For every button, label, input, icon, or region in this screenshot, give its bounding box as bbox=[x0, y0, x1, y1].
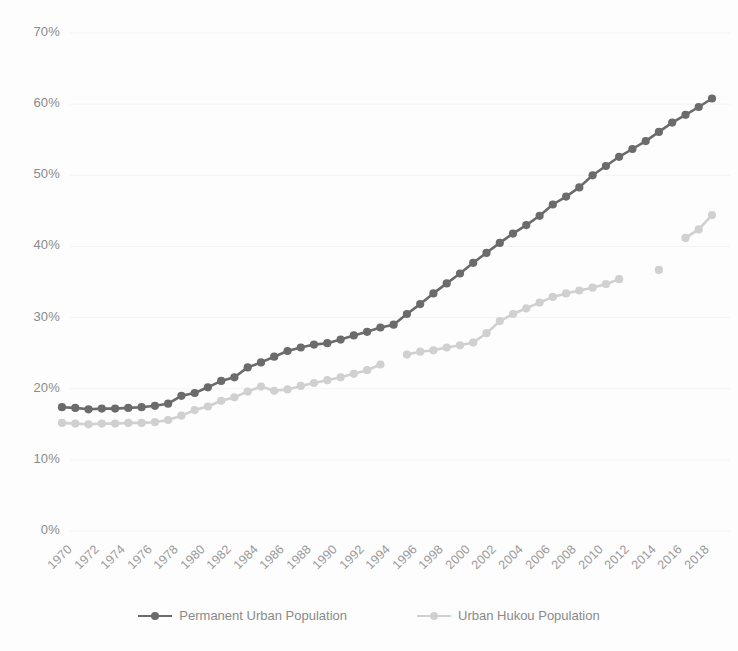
data-point[interactable] bbox=[230, 373, 238, 381]
data-point[interactable] bbox=[549, 200, 557, 208]
data-point[interactable] bbox=[71, 420, 79, 428]
data-point[interactable] bbox=[536, 212, 544, 220]
data-point[interactable] bbox=[98, 405, 106, 413]
data-point[interactable] bbox=[403, 310, 411, 318]
data-point[interactable] bbox=[363, 328, 371, 336]
data-point[interactable] bbox=[589, 171, 597, 179]
data-point[interactable] bbox=[628, 145, 636, 153]
data-point[interactable] bbox=[509, 230, 517, 238]
data-point[interactable] bbox=[575, 286, 583, 294]
data-point[interactable] bbox=[244, 388, 252, 396]
data-point[interactable] bbox=[124, 419, 132, 427]
data-point[interactable] bbox=[164, 400, 172, 408]
data-point[interactable] bbox=[496, 317, 504, 325]
data-point[interactable] bbox=[536, 299, 544, 307]
data-point[interactable] bbox=[297, 343, 305, 351]
data-point[interactable] bbox=[230, 393, 238, 401]
data-point[interactable] bbox=[456, 341, 464, 349]
data-point[interactable] bbox=[138, 403, 146, 411]
data-point[interactable] bbox=[708, 94, 716, 102]
data-point[interactable] bbox=[695, 225, 703, 233]
data-point[interactable] bbox=[310, 379, 318, 387]
data-point[interactable] bbox=[443, 279, 451, 287]
data-point[interactable] bbox=[416, 300, 424, 308]
data-point[interactable] bbox=[496, 239, 504, 247]
data-point[interactable] bbox=[337, 373, 345, 381]
data-point[interactable] bbox=[204, 402, 212, 410]
data-point[interactable] bbox=[323, 339, 331, 347]
legend-item-urban-hukou-population[interactable]: Urban Hukou Population bbox=[417, 608, 600, 623]
data-point[interactable] bbox=[509, 310, 517, 318]
data-point[interactable] bbox=[151, 418, 159, 426]
data-point[interactable] bbox=[323, 376, 331, 384]
data-point[interactable] bbox=[429, 346, 437, 354]
data-point[interactable] bbox=[58, 419, 66, 427]
data-point[interactable] bbox=[124, 404, 132, 412]
data-point[interactable] bbox=[562, 289, 570, 297]
data-point[interactable] bbox=[522, 304, 530, 312]
y-tick-label: 30% bbox=[8, 309, 60, 324]
data-point[interactable] bbox=[138, 419, 146, 427]
data-point[interactable] bbox=[482, 249, 490, 257]
data-point[interactable] bbox=[655, 128, 663, 136]
data-point[interactable] bbox=[549, 293, 557, 301]
data-point[interactable] bbox=[151, 402, 159, 410]
data-point[interactable] bbox=[681, 234, 689, 242]
data-point[interactable] bbox=[482, 329, 490, 337]
data-point[interactable] bbox=[177, 392, 185, 400]
data-point[interactable] bbox=[270, 353, 278, 361]
data-point[interactable] bbox=[681, 111, 689, 119]
data-point[interactable] bbox=[58, 403, 66, 411]
data-point[interactable] bbox=[615, 153, 623, 161]
data-point[interactable] bbox=[257, 358, 265, 366]
data-point[interactable] bbox=[191, 389, 199, 397]
data-point[interactable] bbox=[416, 348, 424, 356]
data-point[interactable] bbox=[84, 405, 92, 413]
data-point[interactable] bbox=[337, 336, 345, 344]
data-point[interactable] bbox=[589, 284, 597, 292]
data-point[interactable] bbox=[363, 366, 371, 374]
data-point[interactable] bbox=[111, 405, 119, 413]
data-point[interactable] bbox=[469, 338, 477, 346]
data-point[interactable] bbox=[615, 275, 623, 283]
data-point[interactable] bbox=[443, 343, 451, 351]
data-point[interactable] bbox=[376, 360, 384, 368]
data-point[interactable] bbox=[522, 221, 530, 229]
data-point[interactable] bbox=[429, 289, 437, 297]
data-point[interactable] bbox=[350, 331, 358, 339]
legend-item-permanent-urban-population[interactable]: Permanent Urban Population bbox=[138, 608, 347, 623]
data-point[interactable] bbox=[98, 420, 106, 428]
data-point[interactable] bbox=[668, 119, 676, 127]
data-point[interactable] bbox=[217, 397, 225, 405]
data-point[interactable] bbox=[164, 416, 172, 424]
data-point[interactable] bbox=[642, 137, 650, 145]
data-point[interactable] bbox=[350, 370, 358, 378]
data-point[interactable] bbox=[84, 420, 92, 428]
data-point[interactable] bbox=[71, 404, 79, 412]
data-point[interactable] bbox=[204, 383, 212, 391]
data-point[interactable] bbox=[602, 280, 610, 288]
data-point[interactable] bbox=[708, 211, 716, 219]
data-point[interactable] bbox=[376, 323, 384, 331]
data-point[interactable] bbox=[456, 269, 464, 277]
data-point[interactable] bbox=[257, 383, 265, 391]
data-point[interactable] bbox=[217, 377, 225, 385]
data-point[interactable] bbox=[283, 385, 291, 393]
data-point[interactable] bbox=[403, 351, 411, 359]
data-point[interactable] bbox=[469, 259, 477, 267]
data-point[interactable] bbox=[562, 193, 570, 201]
data-point[interactable] bbox=[177, 412, 185, 420]
data-point[interactable] bbox=[575, 183, 583, 191]
data-point[interactable] bbox=[297, 382, 305, 390]
data-point[interactable] bbox=[283, 347, 291, 355]
y-tick-label: 60% bbox=[8, 95, 60, 110]
data-point[interactable] bbox=[655, 266, 663, 274]
data-point[interactable] bbox=[602, 162, 610, 170]
data-point[interactable] bbox=[270, 387, 278, 395]
data-point[interactable] bbox=[390, 321, 398, 329]
data-point[interactable] bbox=[244, 363, 252, 371]
data-point[interactable] bbox=[111, 420, 119, 428]
data-point[interactable] bbox=[191, 406, 199, 414]
data-point[interactable] bbox=[695, 103, 703, 111]
data-point[interactable] bbox=[310, 341, 318, 349]
